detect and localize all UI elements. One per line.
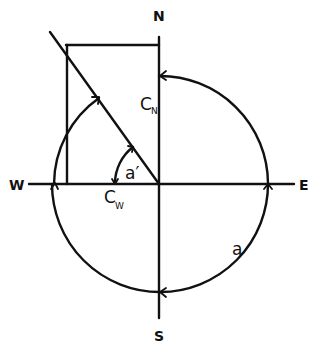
label-east: E [299,177,309,193]
label-west: W [9,177,24,193]
label-south: S [154,328,164,344]
label-a-prime: a′ [125,163,139,183]
label-cn-sub: N [151,106,158,116]
label-a: a [232,239,242,259]
compass-diagram: N S E W C N C W a′ a [0,0,315,351]
label-cw-sub: W [115,201,124,211]
label-north: N [153,8,165,24]
circle-arc-upper-left [54,98,99,184]
